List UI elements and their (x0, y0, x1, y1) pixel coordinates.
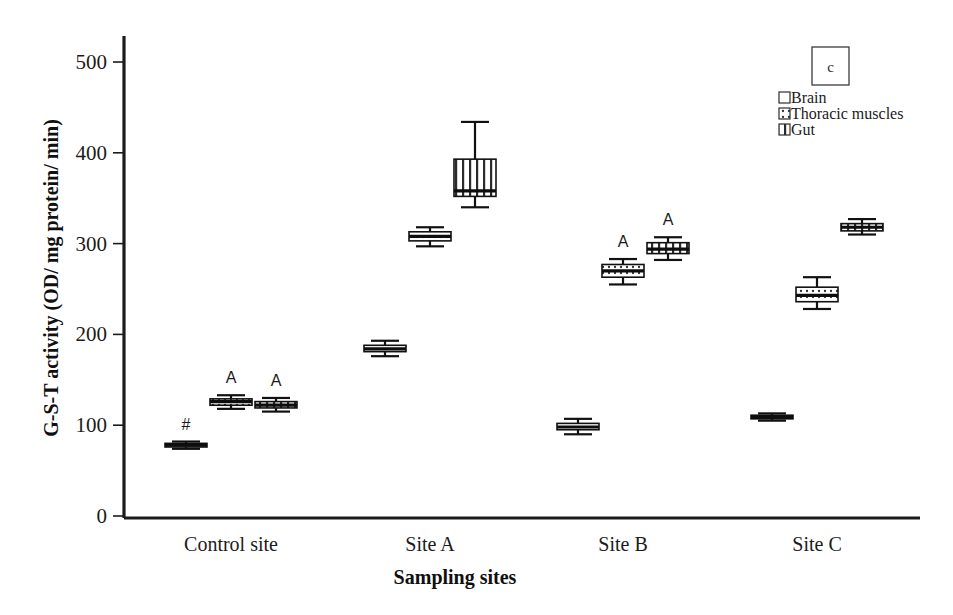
box-plot-layer (165, 122, 883, 449)
legend-label: Thoracic muscles (791, 105, 903, 122)
significance-annotation: # (182, 416, 191, 433)
boxplot-thoracic-muscles-1 (409, 227, 451, 246)
y-tick-label: 0 (97, 504, 108, 528)
boxplot-gut-3 (841, 219, 883, 234)
boxplot-gut-1 (454, 122, 496, 207)
legend: cBrainThoracic musclesGut (779, 47, 903, 138)
x-category-label: Site A (405, 533, 455, 555)
boxplot-brain-0 (165, 442, 207, 449)
boxplot-brain-1 (364, 341, 406, 356)
x-tick-group: Control siteSite ASite BSite C (184, 518, 842, 555)
legend-swatch-gut (779, 124, 790, 135)
boxplot-svg: 0100200300400500 Control siteSite ASite … (0, 0, 953, 615)
panel-label-text: c (827, 59, 834, 75)
boxplot-thoracic-muscles-0 (210, 395, 252, 409)
boxplot-thoracic-muscles-3 (796, 277, 838, 309)
y-axis-title: G-S-T activity (OD/ mg protein/ min) (40, 119, 63, 437)
y-tick-label: 200 (76, 322, 108, 346)
y-tick-label: 400 (76, 141, 108, 165)
significance-annotation: A (618, 233, 629, 250)
boxplot-brain-3 (751, 413, 793, 420)
legend-swatch-brain (779, 92, 790, 103)
y-tick-label: 300 (76, 232, 108, 256)
y-tick-group: 0100200300400500 (76, 50, 125, 528)
legend-label: Brain (791, 89, 827, 106)
x-category-label: Site C (792, 533, 841, 555)
x-category-label: Site B (598, 533, 647, 555)
chart-container: 0100200300400500 Control siteSite ASite … (0, 0, 953, 615)
significance-annotation: A (663, 211, 674, 228)
y-tick-label: 100 (76, 413, 108, 437)
boxplot-thoracic-muscles-2 (602, 259, 644, 284)
x-category-label: Control site (184, 533, 278, 555)
significance-annotation: A (226, 369, 237, 386)
legend-label: Gut (791, 121, 816, 138)
boxplot-gut-2 (647, 237, 689, 260)
boxplot-brain-2 (557, 419, 599, 434)
legend-swatch-thoracic-muscles (779, 108, 790, 119)
x-axis-title: Sampling sites (394, 566, 517, 589)
y-tick-label: 500 (76, 50, 108, 74)
significance-annotation: A (271, 372, 282, 389)
annotation-layer: #AAAA (182, 211, 674, 432)
boxplot-gut-0 (255, 398, 297, 412)
